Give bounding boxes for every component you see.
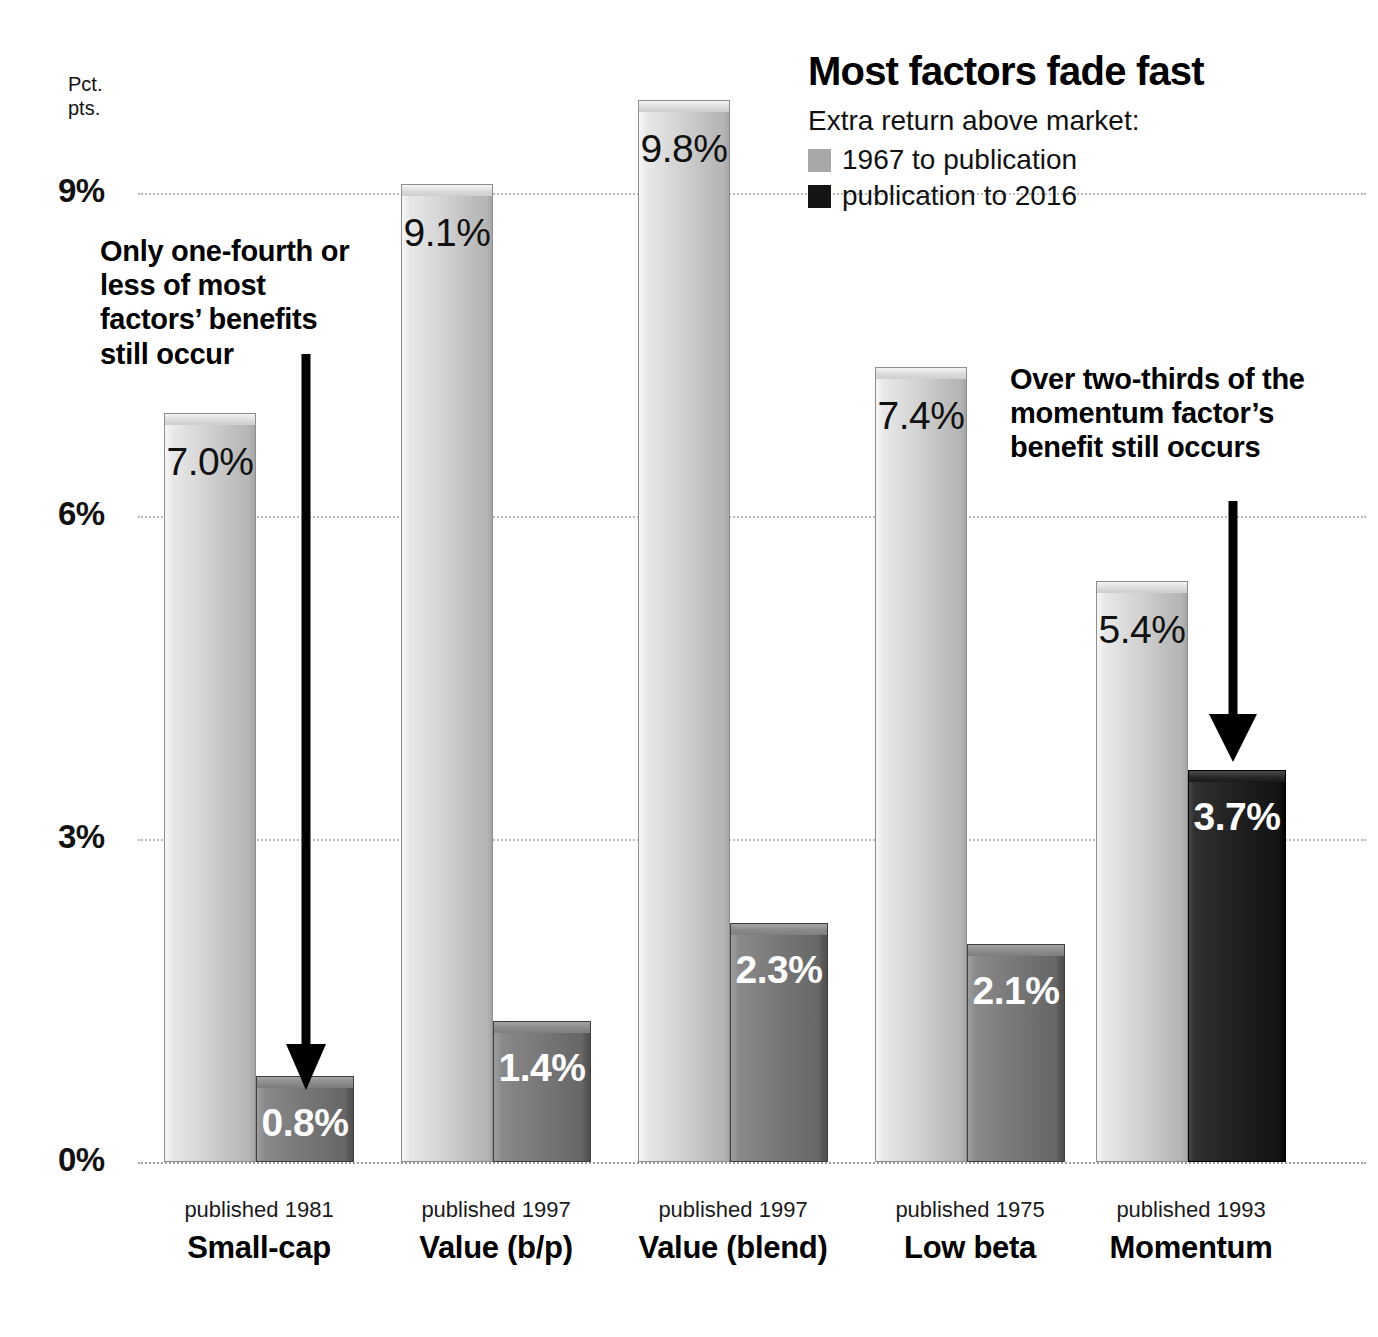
callout-arrows: [0, 0, 1378, 1337]
chart-root: Pct. pts. 9% 6% 3% 0% 7.0% 0.8% 9.1%: [0, 0, 1378, 1337]
bar-value-momentum-before: 5.4%: [1097, 610, 1187, 649]
bar-value-momentum-after: 3.7%: [1189, 797, 1285, 836]
bar-value-value-bp-before: 9.1%: [402, 213, 492, 252]
bar-value-value-blend-before: 9.8%: [639, 129, 729, 168]
bar-value-low-beta-before: 7.4%: [876, 396, 966, 435]
bar-value-value-bp-after: 1.4%: [494, 1048, 590, 1087]
bar-value-low-beta-after: 2.1%: [968, 971, 1064, 1010]
arrow-right-icon: [1209, 501, 1257, 762]
arrow-left-icon: [286, 354, 326, 1090]
bar-value-small-cap-after: 0.8%: [257, 1103, 353, 1142]
bar-value-small-cap-before: 7.0%: [165, 442, 255, 481]
bar-value-value-blend-after: 2.3%: [731, 950, 827, 989]
